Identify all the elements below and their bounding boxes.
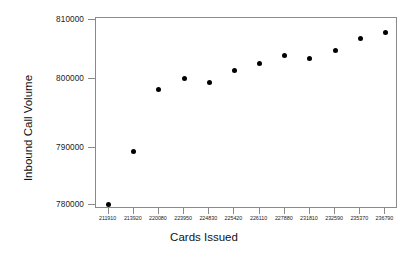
data-point (232, 68, 237, 73)
x-tick-label-225420: 225420 (225, 215, 243, 221)
plot-area (95, 17, 397, 208)
x-tick-mark (158, 208, 159, 214)
x-tick-label-226110: 226110 (250, 215, 267, 221)
data-point (106, 202, 111, 207)
y-tick-label-790000: 790000 (56, 143, 84, 152)
x-tick-mark (259, 208, 260, 214)
data-point (307, 56, 312, 61)
x-tick-mark (208, 208, 209, 214)
y-tick-label-810000: 810000 (56, 15, 84, 24)
data-point (207, 80, 212, 85)
x-tick-mark (233, 208, 234, 214)
x-axis-title: Cards Issued (0, 231, 408, 243)
y-tick-mark (88, 19, 95, 20)
data-point (358, 36, 363, 41)
x-tick-mark (133, 208, 134, 214)
y-tick-mark (88, 147, 95, 148)
data-point (131, 149, 136, 154)
x-tick-label-235370: 235370 (350, 215, 368, 221)
x-tick-label-231810: 231810 (300, 215, 318, 221)
x-tick-label-224830: 224830 (199, 215, 217, 221)
data-point (282, 53, 287, 58)
data-point (156, 87, 161, 92)
x-tick-label-213920: 213920 (124, 215, 142, 221)
x-tick-label-232590: 232590 (325, 215, 343, 221)
x-tick-mark (108, 208, 109, 214)
data-point (383, 30, 388, 35)
x-tick-mark (359, 208, 360, 214)
x-tick-label-227880: 227880 (275, 215, 293, 221)
data-points-layer (96, 18, 396, 207)
x-tick-label-223950: 223950 (174, 215, 192, 221)
x-tick-label-236790: 236790 (376, 215, 394, 221)
y-tick-label-780000: 780000 (56, 200, 84, 209)
x-tick-label-211910: 211910 (99, 215, 116, 221)
y-axis-title: Inbound Call Volume (22, 48, 34, 208)
x-tick-label-220080: 220080 (149, 215, 167, 221)
data-point (333, 48, 338, 53)
x-tick-mark (284, 208, 285, 214)
x-tick-mark (334, 208, 335, 214)
y-tick-mark (88, 78, 95, 79)
scatter-chart-figure: Inbound Call Volume 810000 800000 790000… (0, 0, 408, 256)
y-tick-label-800000: 800000 (56, 74, 84, 83)
data-point (257, 61, 262, 66)
y-tick-mark (88, 204, 95, 205)
data-point (182, 76, 187, 81)
x-tick-mark (309, 208, 310, 214)
x-tick-mark (384, 208, 385, 214)
x-tick-mark (183, 208, 184, 214)
